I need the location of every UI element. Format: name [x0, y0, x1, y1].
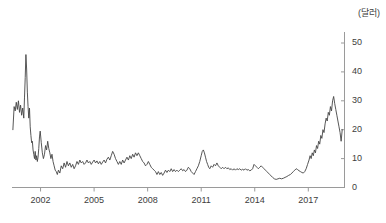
axis-lines	[12, 32, 345, 188]
x-tick-label: 2017	[298, 195, 318, 205]
chart-container: (달러) 01020304050 20022005200820112014201…	[0, 0, 386, 223]
x-tick-label: 2008	[138, 195, 158, 205]
x-tick-label: 2014	[245, 195, 265, 205]
y-axis-unit-label: (달러)	[358, 6, 380, 19]
x-axis-tick-marks	[41, 188, 309, 192]
x-tick-label: 2011	[192, 195, 211, 205]
y-tick-label: 50	[352, 37, 362, 47]
data-series-line	[13, 55, 342, 180]
x-tick-label: 2002	[31, 195, 51, 205]
y-tick-label: 30	[352, 95, 362, 105]
y-tick-label: 0	[352, 182, 357, 192]
y-tick-label: 20	[352, 124, 362, 134]
y-tick-label: 40	[352, 66, 362, 76]
x-tick-label: 2005	[84, 195, 104, 205]
y-tick-label: 10	[352, 153, 362, 163]
line-chart-plot	[0, 0, 386, 223]
